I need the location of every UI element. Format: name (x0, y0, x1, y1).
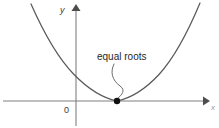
x-axis-label: x (210, 103, 216, 112)
origin-label: 0 (64, 105, 69, 115)
x-axis-arrowhead (203, 97, 210, 106)
annotation-leader-line (112, 64, 123, 99)
equal-roots-point-marker (114, 98, 120, 104)
y-axis-arrowhead (72, 4, 81, 11)
equal-roots-annotation-label: equal roots (97, 51, 146, 62)
equal-roots-parabola-figure: y x 0 equal roots (0, 0, 219, 128)
y-axis-label: y (59, 5, 65, 15)
figure-canvas: y x 0 equal roots (0, 0, 219, 128)
